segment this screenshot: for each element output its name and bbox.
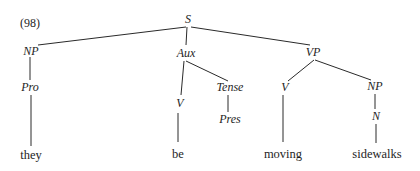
- node-np-object: NP: [366, 79, 383, 93]
- leaf-they: they: [20, 148, 42, 162]
- node-n: N: [371, 109, 381, 123]
- node-vp: VP: [306, 45, 321, 59]
- edge-s-vp: [191, 27, 310, 45]
- node-v-aux: V: [176, 96, 185, 110]
- leaf-be: be: [172, 147, 184, 161]
- edge-vp-v: [288, 60, 314, 81]
- node-aux: Aux: [176, 46, 196, 60]
- tree-leaves: they be moving sidewalks: [20, 147, 402, 162]
- example-number: (98): [20, 16, 40, 30]
- edge-aux-tense: [186, 61, 228, 81]
- node-tense: Tense: [217, 80, 245, 94]
- tree-edges: [30, 27, 376, 146]
- edge-vp-np: [315, 60, 371, 80]
- leaf-moving: moving: [264, 147, 303, 161]
- node-v-vp: V: [281, 80, 290, 94]
- node-np-subject: NP: [22, 44, 39, 58]
- edge-s-np: [38, 27, 186, 45]
- node-s: S: [185, 12, 191, 26]
- node-pres: Pres: [218, 112, 241, 126]
- leaf-sidewalks: sidewalks: [352, 147, 401, 161]
- syntax-tree-diagram: (98) S NP Aux VP Pro V Tense Pres V NP N…: [0, 0, 420, 171]
- edge-aux-v: [181, 61, 184, 95]
- node-pro: Pro: [20, 80, 39, 94]
- edge-s-aux: [186, 27, 187, 45]
